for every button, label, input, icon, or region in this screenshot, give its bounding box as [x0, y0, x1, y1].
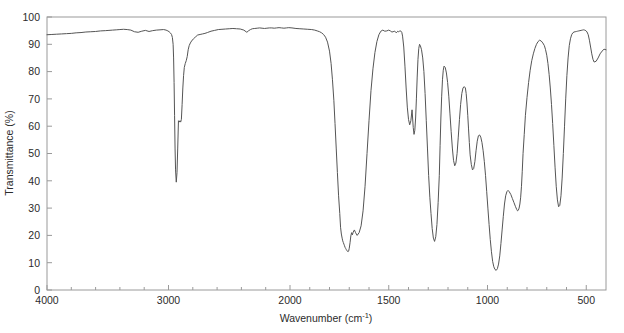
y-tick-label: 60	[28, 120, 40, 132]
x-tick-label: 1500	[377, 294, 401, 306]
ir-spectrum-figure: 40003000200015001000500 0102030405060708…	[0, 0, 624, 333]
x-tick-label: 500	[577, 294, 595, 306]
y-tick-label: 10	[28, 257, 40, 269]
y-tick-label: 20	[28, 229, 40, 241]
y-axis-tick-labels: 0102030405060708090100	[22, 11, 40, 296]
y-tick-label: 50	[28, 147, 40, 159]
y-tick-label: 30	[28, 202, 40, 214]
spectrum-trace	[47, 28, 606, 271]
y-tick-label: 90	[28, 38, 40, 50]
y-tick-label: 80	[28, 65, 40, 77]
y-tick-label: 0	[34, 284, 40, 296]
spectrum-plot: 40003000200015001000500 0102030405060708…	[0, 0, 624, 333]
plot-frame	[47, 17, 606, 290]
plot-border	[47, 17, 606, 290]
x-axis-tick-labels: 40003000200015001000500	[35, 294, 595, 306]
y-tick-label: 100	[22, 11, 40, 23]
x-tick-label: 3000	[157, 294, 181, 306]
spectrum-line	[47, 28, 606, 271]
y-tick-label: 70	[28, 93, 40, 105]
x-axis-ticks	[47, 285, 586, 290]
x-axis-title: Wavenumber (cm-1)	[280, 311, 373, 325]
y-axis-title: Transmittance (%)	[3, 110, 15, 195]
x-tick-label: 1000	[476, 294, 500, 306]
y-tick-label: 40	[28, 175, 40, 187]
x-tick-label: 2000	[278, 294, 302, 306]
y-axis-ticks	[47, 17, 52, 290]
